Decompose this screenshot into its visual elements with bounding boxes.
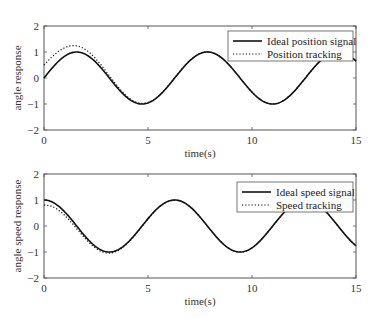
top-xtick-10: 10 — [247, 134, 259, 146]
top-xtick-0: 0 — [41, 134, 47, 146]
bottom-xtick-10: 10 — [247, 282, 259, 294]
figure: 2 1 0 −1 −2 0 5 10 15 time(s) angle resp… — [0, 0, 375, 319]
bottom-legend: Ideal speed signal Speed tracking — [237, 182, 355, 212]
bottom-xtick-0: 0 — [41, 282, 47, 294]
top-ytick-1: 1 — [34, 46, 40, 58]
top-ylabel: angle response — [11, 45, 23, 110]
bottom-xtick-15: 15 — [351, 282, 363, 294]
top-ytick-0: 0 — [34, 72, 40, 84]
top-xtick-15: 15 — [351, 134, 363, 146]
bottom-ylabel: angle speed response — [11, 179, 23, 272]
bottom-xlabel: time(s) — [184, 295, 215, 308]
top-xlabel: time(s) — [184, 147, 215, 160]
legend-speed-tracking: Speed tracking — [276, 199, 342, 211]
top-ytick-neg1: −1 — [27, 98, 39, 110]
bottom-ytick-1: 1 — [34, 194, 40, 206]
legend-position-tracking: Position tracking — [267, 48, 342, 60]
legend-ideal-position: Ideal position signal — [267, 35, 356, 47]
bottom-ytick-0: 0 — [34, 220, 40, 232]
top-legend: Ideal position signal Position tracking — [228, 31, 356, 61]
bottom-xtick-5: 5 — [145, 282, 151, 294]
top-xtick-5: 5 — [145, 134, 151, 146]
top-plot: 2 1 0 −1 −2 0 5 10 15 time(s) angle resp… — [11, 20, 362, 160]
bottom-ytick-neg2: −2 — [27, 272, 39, 284]
top-ytick-neg2: −2 — [27, 124, 39, 136]
top-ytick-2: 2 — [34, 20, 40, 32]
legend-ideal-speed: Ideal speed signal — [276, 186, 355, 198]
bottom-plot: 2 1 0 −1 −2 0 5 10 15 time(s) angle spee… — [11, 168, 362, 308]
bottom-ytick-neg1: −1 — [27, 246, 39, 258]
bottom-ytick-2: 2 — [34, 168, 40, 180]
